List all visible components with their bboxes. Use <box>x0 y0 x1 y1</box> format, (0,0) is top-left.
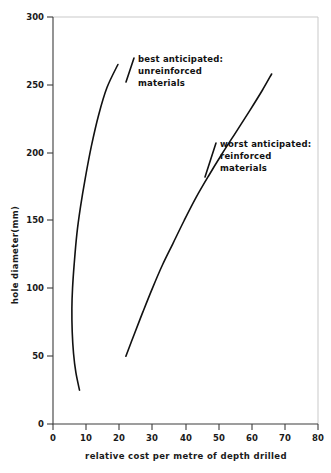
chart-figure: 0 50 100 150 200 250 300 0 10 20 30 40 <box>0 0 331 473</box>
best-anticipated-annotation: best anticipated: unreinforced materials <box>138 54 223 88</box>
annotation-line: materials <box>138 78 185 88</box>
y-axis-ticks <box>47 17 53 424</box>
y-tick-label: 150 <box>26 215 44 225</box>
x-axis-ticks <box>53 424 318 430</box>
chart-canvas: 0 50 100 150 200 250 300 0 10 20 30 40 <box>0 0 331 473</box>
annotation-line: best anticipated: <box>138 54 223 64</box>
y-tick-label: 300 <box>26 12 44 22</box>
y-axis-tick-labels: 0 50 100 150 200 250 300 <box>26 12 44 429</box>
y-tick-label: 250 <box>26 80 44 90</box>
series-line-worst-anticipated <box>126 74 272 356</box>
annotation-line: reinforced <box>220 151 272 161</box>
x-tick-label: 70 <box>279 433 291 443</box>
y-tick-label: 200 <box>26 148 44 158</box>
x-axis-tick-labels: 0 10 20 30 40 50 60 70 80 <box>50 433 324 443</box>
x-tick-label: 20 <box>113 433 125 443</box>
x-tick-label: 0 <box>50 433 56 443</box>
x-tick-label: 40 <box>180 433 192 443</box>
x-tick-label: 60 <box>246 433 258 443</box>
x-tick-label: 50 <box>213 433 225 443</box>
annotation-line: materials <box>220 163 267 173</box>
x-tick-label: 80 <box>312 433 324 443</box>
y-axis-title: hole diameter(mm) <box>10 206 20 304</box>
y-tick-label: 100 <box>26 283 44 293</box>
y-tick-label: 50 <box>32 351 44 361</box>
x-axis-title: relative cost per metre of depth drilled <box>85 451 287 461</box>
plot-frame <box>53 17 318 424</box>
best-anticipated-leader-line <box>126 58 134 82</box>
annotation-line: unreinforced <box>138 66 202 76</box>
worst-anticipated-annotation: worst anticipated: reinforced materials <box>220 139 311 173</box>
x-tick-label: 10 <box>80 433 92 443</box>
series-line-best-anticipated <box>72 64 118 390</box>
annotation-line: worst anticipated: <box>220 139 311 149</box>
y-tick-label: 0 <box>38 419 44 429</box>
x-tick-label: 30 <box>146 433 158 443</box>
plot-axes <box>53 17 318 424</box>
